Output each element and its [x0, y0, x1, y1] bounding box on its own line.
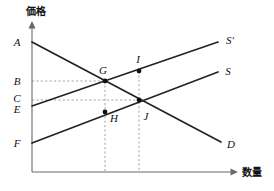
curve-label-s: S: [225, 65, 231, 77]
point-marker-i: [137, 69, 142, 74]
curve-label-s-prime: S': [226, 34, 235, 46]
y-axis-mark-b: B: [14, 75, 21, 87]
curves: [32, 42, 221, 143]
dashed-guides: [32, 71, 139, 172]
point-marker-g: [103, 79, 108, 84]
y-axis-title: 価格: [25, 5, 47, 17]
curve-demand: [32, 42, 221, 142]
curve-supply: [32, 72, 218, 143]
supply-demand-figure: A B C E F G I H J S' S D 価格 数量: [0, 0, 274, 191]
chart-canvas: A B C E F G I H J S' S D 価格 数量: [0, 0, 274, 191]
point-marker-j: [137, 98, 142, 103]
point-label-h: H: [109, 112, 119, 124]
point-label-g: G: [99, 64, 107, 76]
x-axis-title: 数量: [242, 166, 262, 178]
y-axis-mark-a: A: [13, 36, 21, 48]
curve-label-d: D: [226, 138, 235, 150]
y-axis-mark-f: F: [13, 137, 21, 149]
point-marker-h: [103, 110, 108, 115]
point-label-j: J: [144, 110, 150, 122]
curve-supply-shifted: [32, 42, 218, 106]
x-axis-arrow-icon: [231, 168, 239, 175]
y-axis-arrow-icon: [28, 21, 35, 29]
point-label-i: I: [135, 53, 141, 65]
y-axis-mark-e: E: [13, 103, 21, 115]
